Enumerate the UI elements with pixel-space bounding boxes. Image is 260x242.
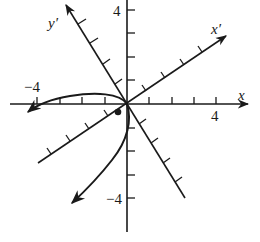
y-prime-axis-name: y′ [46,15,59,31]
x-axis-label-4: 4 [211,108,219,124]
diagram-canvas: 4 −4 −4 4 x x′ y′ [0,0,260,242]
y-axis-label-4: 4 [113,3,121,19]
y-axis-label-neg4: −4 [106,191,122,207]
x-axis-label-neg4: −4 [24,79,40,95]
x-prime-axis [38,36,226,163]
vertex-point [115,109,122,116]
x-axis-name: x [237,87,245,103]
parabola-curve [28,94,129,203]
x-prime-axis-name: x′ [210,21,222,37]
